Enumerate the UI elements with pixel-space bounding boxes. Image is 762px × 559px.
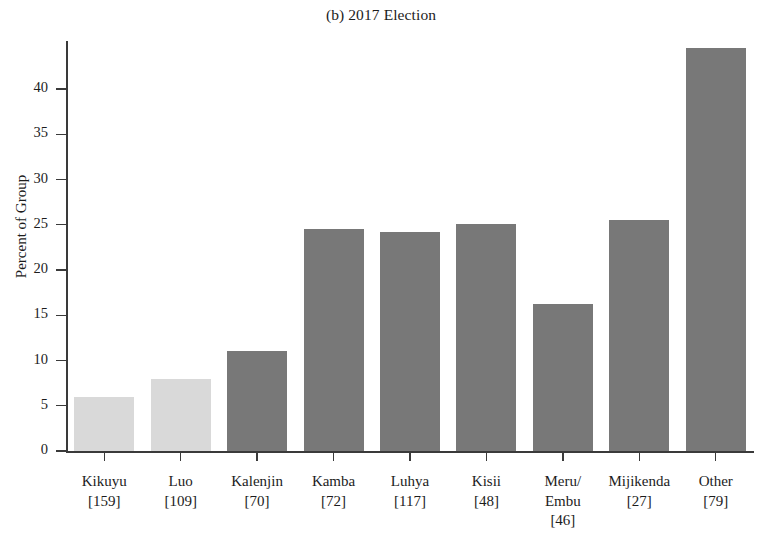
category-count: [79] <box>656 492 762 512</box>
bar-kisii <box>456 224 516 451</box>
category-name: Other <box>656 472 762 492</box>
x-tick-7 <box>639 452 640 461</box>
x-tick-8 <box>715 452 716 461</box>
x-axis-label-8: Other[79] <box>656 472 762 511</box>
figure-2017-election: (b) 2017 Election Percent of Group 05101… <box>0 0 762 559</box>
x-tick-3 <box>333 452 334 461</box>
bars-layer <box>0 0 762 451</box>
bar-kikuyu <box>74 397 134 451</box>
bar-luhya <box>380 232 440 451</box>
bar-other <box>686 48 746 451</box>
bar-meruembu <box>533 304 593 452</box>
bar-luo <box>151 379 211 451</box>
bar-mijikenda <box>609 220 669 451</box>
x-tick-0 <box>104 452 105 461</box>
bar-kalenjin <box>227 351 287 451</box>
category-count: [46] <box>503 511 623 531</box>
x-tick-2 <box>256 452 257 461</box>
bar-kamba <box>304 229 364 451</box>
x-tick-6 <box>562 452 563 461</box>
x-tick-1 <box>180 452 181 461</box>
x-tick-4 <box>409 452 410 461</box>
x-tick-5 <box>486 452 487 461</box>
